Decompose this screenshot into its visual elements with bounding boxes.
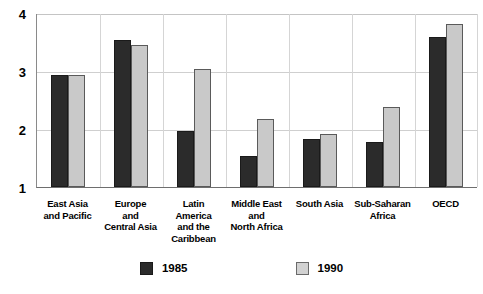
y-tick-2: 2 <box>19 124 26 137</box>
category-label-1: EuropeandCentral Asia <box>99 198 162 256</box>
bar-1990-3 <box>257 119 274 187</box>
bar-group <box>37 14 100 187</box>
bar-group <box>288 14 351 187</box>
y-tick-3: 3 <box>19 66 26 79</box>
y-axis: 4 3 2 1 <box>0 0 34 196</box>
y-tick-4: 4 <box>19 8 26 21</box>
category-label-4: South Asia <box>288 198 351 256</box>
bar-1985-1 <box>114 40 131 187</box>
bar-group <box>226 14 289 187</box>
bar-pair <box>226 14 289 187</box>
bar-pair <box>351 14 414 187</box>
category-label-2: LatinAmericaand theCaribbean <box>162 198 225 256</box>
bar-pair <box>37 14 100 187</box>
legend-item-1990: 1990 <box>296 262 344 275</box>
bar-1990-6 <box>446 24 463 187</box>
bar-pair <box>163 14 226 187</box>
legend-label-1990: 1990 <box>318 263 344 275</box>
legend-item-1985: 1985 <box>140 262 188 275</box>
chart-legend: 1985 1990 <box>0 262 483 275</box>
y-tick-1: 1 <box>19 182 26 195</box>
bar-1990-5 <box>383 107 400 187</box>
bar-pair <box>414 14 477 187</box>
bar-1985-6 <box>429 37 446 187</box>
bar-1985-0 <box>51 75 68 187</box>
bar-1985-4 <box>303 139 320 187</box>
category-label-6: OECD <box>414 198 477 256</box>
legend-swatch-1990 <box>296 262 309 275</box>
bar-1990-1 <box>131 45 148 187</box>
plot-area <box>36 14 477 188</box>
legend-swatch-1985 <box>140 262 153 275</box>
category-label-0: East Asiaand Pacific <box>36 198 99 256</box>
plot-area-wrapper: 4 3 2 1 <box>0 0 483 196</box>
bar-groups <box>37 14 477 187</box>
bar-group <box>163 14 226 187</box>
bar-pair <box>100 14 163 187</box>
category-label-3: Middle EastandNorth Africa <box>225 198 288 256</box>
plot-right-edge <box>477 14 478 187</box>
bar-group <box>100 14 163 187</box>
bar-1985-3 <box>240 156 257 187</box>
bar-1985-2 <box>177 131 194 187</box>
bar-group <box>351 14 414 187</box>
bar-pair <box>288 14 351 187</box>
bar-1990-2 <box>194 69 211 187</box>
category-axis-labels: East Asiaand PacificEuropeandCentral Asi… <box>36 198 477 256</box>
legend-label-1985: 1985 <box>162 263 188 275</box>
bar-1990-0 <box>68 75 85 187</box>
bar-1985-5 <box>366 142 383 187</box>
bar-1990-4 <box>320 134 337 187</box>
bar-group <box>414 14 477 187</box>
category-label-5: Sub-SaharanAfrica <box>351 198 414 256</box>
bar-chart: 4 3 2 1 East Asiaand PacificEuropeandCen… <box>0 0 483 294</box>
